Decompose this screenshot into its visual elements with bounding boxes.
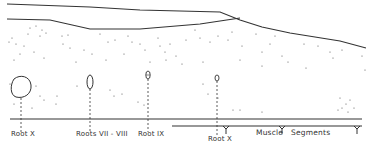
- inner-contour-line: [7, 18, 240, 29]
- label-segments: Segments: [291, 128, 330, 137]
- stipple-dots: [8, 25, 365, 112]
- segment-tick-3: [354, 126, 360, 134]
- outer-contour-line: [7, 4, 366, 48]
- label-muscle: Muscle: [256, 128, 283, 137]
- label-roots-vii-viii: Roots VII - VIII: [76, 130, 128, 138]
- root-x-section: [11, 76, 31, 97]
- label-root-ix: Root IX: [138, 130, 164, 138]
- anatomical-diagram: [0, 0, 371, 147]
- segment-tick-1: [223, 126, 229, 134]
- label-root-x: Root X: [11, 130, 35, 138]
- label-root-x2: Root X: [208, 135, 232, 143]
- roots-vii-viii-section: [87, 75, 93, 89]
- root-x2-section: [215, 75, 219, 81]
